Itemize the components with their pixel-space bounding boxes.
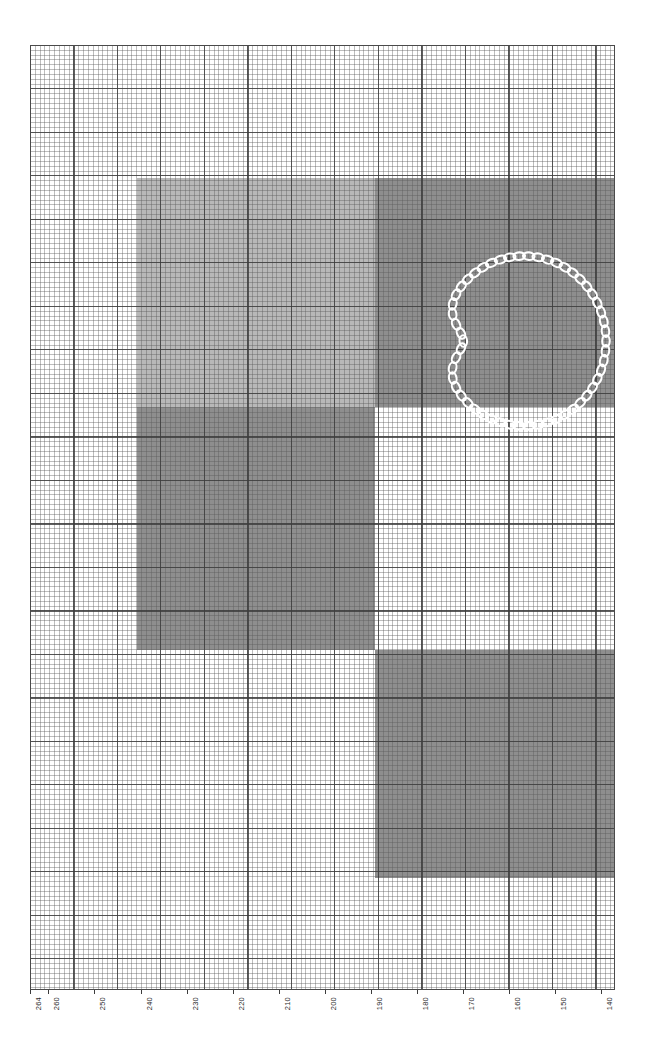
chain-link xyxy=(513,422,525,430)
figure-page: 2642602502402302202102001901801701601501… xyxy=(0,0,654,1057)
chain-link xyxy=(503,420,516,430)
x-axis-tick xyxy=(279,990,280,994)
x-axis-tick-label: 190 xyxy=(375,997,384,1010)
x-axis-tick xyxy=(187,990,188,994)
x-axis-tick xyxy=(555,990,556,994)
upper-left-light-block xyxy=(137,178,375,407)
x-axis-tick xyxy=(417,990,418,994)
chain-link xyxy=(523,422,535,430)
x-axis-tick xyxy=(601,990,602,994)
x-axis-tick-label: 140 xyxy=(605,997,614,1010)
x-axis-tick-label: 240 xyxy=(145,997,154,1010)
chain-link xyxy=(550,413,564,425)
chain-link xyxy=(485,413,499,425)
middle-left-dark-block xyxy=(137,407,375,650)
x-axis-tick-label: 210 xyxy=(283,997,292,1010)
plot-area xyxy=(30,45,615,990)
x-axis-tick xyxy=(233,990,234,994)
x-axis: 2642602502402302202102001901801701601501… xyxy=(30,990,615,1050)
x-axis-tick-label: 230 xyxy=(191,997,200,1010)
chain-link xyxy=(494,417,507,428)
upper-right-dark-block xyxy=(375,178,615,407)
x-axis-tick-label: 170 xyxy=(467,997,476,1010)
chain-link xyxy=(476,408,490,420)
lower-right-dark-block xyxy=(375,650,615,878)
x-axis-tick xyxy=(30,990,31,994)
x-axis-tick xyxy=(463,990,464,994)
x-axis-tick xyxy=(509,990,510,994)
x-axis-tick-label: 150 xyxy=(559,997,568,1010)
x-axis-tick-label: 220 xyxy=(237,997,246,1010)
x-axis-tick-label: 180 xyxy=(421,997,430,1010)
x-axis-tick-label: 160 xyxy=(513,997,522,1010)
x-axis-tick-label: 200 xyxy=(329,997,338,1010)
chain-link xyxy=(541,417,554,428)
x-axis-tick-label: 264 xyxy=(34,997,43,1010)
x-axis-tick-label: 260 xyxy=(52,997,61,1010)
x-axis-tick xyxy=(325,990,326,994)
x-axis-tick xyxy=(371,990,372,994)
chain-link xyxy=(558,408,572,420)
x-axis-tick xyxy=(94,990,95,994)
x-axis-tick xyxy=(48,990,49,994)
x-axis-tick-label: 250 xyxy=(98,997,107,1010)
chain-link xyxy=(532,420,545,429)
diagonal-scuff-watermark xyxy=(137,650,375,878)
x-axis-tick xyxy=(141,990,142,994)
